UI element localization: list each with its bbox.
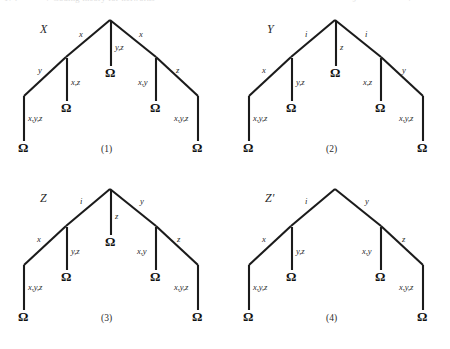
left-branch-diag: [24, 57, 66, 96]
tree-3-right-stem-label: x,y: [137, 246, 146, 256]
tree-4-leaf-left-label: x,y,z: [253, 282, 267, 292]
tree-2-omega-right-inner: Ω: [375, 101, 385, 114]
left-branch-diag: [249, 226, 291, 265]
tree-3-omega-center: Ω: [105, 235, 115, 248]
apex-left-edge: [66, 20, 110, 57]
tree-diagram-1: X x y,z x y x,z x,y z x,y,z x,y,z Ω Ω Ω …: [0, 0, 225, 175]
right-branch-diag: [381, 57, 423, 96]
right-branch-diag: [381, 226, 423, 265]
tree-diagram-4: Z′ i y x y,z x,y z x,y,z x,y,z Ω Ω Ω Ω (…: [225, 174, 450, 349]
tree-2-name: Y: [267, 22, 274, 37]
apex-left-edge: [66, 189, 110, 226]
tree-1-omega-right-inner: Ω: [150, 101, 160, 114]
tree-2-apex-center-label: z: [340, 42, 343, 52]
tree-3-right-diag-label: z: [177, 234, 180, 244]
tree-1-leaf-right-label: x,y,z: [174, 113, 188, 123]
tree-1-right-diag-label: z: [176, 65, 179, 75]
tree-3-omega-right-inner: Ω: [150, 270, 160, 283]
right-branch-diag: [156, 57, 198, 96]
tree-3-omega-leaf-left: Ω: [18, 310, 28, 323]
tree-1-omega-left-inner: Ω: [61, 101, 71, 114]
tree-3-apex-right-label: y: [140, 196, 144, 206]
left-branch-diag: [24, 226, 66, 265]
tree-1-name: X: [40, 22, 47, 37]
tree-4-right-diag-label: z: [402, 234, 405, 244]
tree-4-leaf-right-label: x,y,z: [399, 282, 413, 292]
tree-4-omega-left-inner: Ω: [286, 270, 296, 283]
tree-4-left-diag-label: x: [262, 234, 266, 244]
tree-1-apex-center-label: y,z: [115, 42, 124, 52]
apex-left-edge: [291, 20, 335, 57]
tree-2-caption: (2): [326, 144, 337, 154]
tree-2-left-diag-label: x: [262, 65, 266, 75]
tree-2-right-stem-label: x,z: [363, 77, 372, 87]
tree-1-leaf-left-label: x,y,z: [28, 113, 42, 123]
tree-3-left-stem-label: y,z: [71, 246, 80, 256]
tree-1-left-stem-label: x,z: [71, 77, 80, 87]
tree-1-omega-leaf-left: Ω: [18, 141, 28, 154]
tree-3-leaf-right-label: x,y,z: [174, 282, 188, 292]
tree-1-omega-center: Ω: [105, 66, 115, 79]
tree-2-omega-left-inner: Ω: [286, 101, 296, 114]
tree-1-right-stem-label: x,y: [138, 77, 147, 87]
right-branch-diag: [156, 226, 198, 265]
tree-3-leaf-left-label: x,y,z: [28, 282, 42, 292]
left-branch-diag: [249, 57, 291, 96]
tree-diagram-3: Z i z y x y,z x,y z x,y,z x,y,z Ω Ω Ω Ω …: [0, 174, 225, 349]
tree-4-omega-leaf-right: Ω: [417, 310, 427, 323]
tree-4-left-stem-label: y,z: [296, 246, 305, 256]
tree-4-name: Z′: [265, 191, 274, 206]
tree-2-left-stem-label: y,z: [296, 77, 305, 87]
tree-3-caption: (3): [101, 313, 112, 323]
tree-2-omega-center: Ω: [330, 66, 340, 79]
tree-4-apex-right-label: y: [365, 196, 369, 206]
tree-2-omega-leaf-left: Ω: [243, 141, 253, 154]
tree-2-leaf-right-label: x,y,z: [399, 113, 413, 123]
tree-3-name: Z: [40, 191, 47, 206]
tree-1-omega-leaf-right: Ω: [192, 141, 202, 154]
tree-3-apex-left-label: i: [80, 196, 82, 206]
tree-diagram-2: Y i z i x y,z x,z y x,y,z x,y,z Ω Ω Ω Ω …: [225, 0, 450, 175]
tree-3-apex-center-label: z: [115, 211, 118, 221]
tree-2-right-diag-label: y: [402, 65, 406, 75]
tree-4-omega-leaf-left: Ω: [243, 310, 253, 323]
apex-right-edge: [335, 189, 381, 226]
tree-1-caption: (1): [101, 144, 112, 154]
tree-4-right-stem-label: x,y: [362, 246, 371, 256]
tree-3-omega-leaf-right: Ω: [192, 310, 202, 323]
tree-3-left-diag-label: x: [37, 234, 41, 244]
apex-left-edge: [291, 189, 335, 226]
tree-2-omega-leaf-right: Ω: [417, 141, 427, 154]
tree-2-apex-left-label: i: [305, 29, 307, 39]
tree-2-apex-right-label: i: [365, 29, 367, 39]
tree-4-omega-right-inner: Ω: [375, 270, 385, 283]
tree-4-apex-left-label: i: [305, 196, 307, 206]
tree-1-apex-right-label: x: [139, 29, 143, 39]
tree-2-leaf-left-label: x,y,z: [253, 113, 267, 123]
tree-1-apex-left-label: x: [79, 29, 83, 39]
tree-4-caption: (4): [326, 313, 337, 323]
tree-1-left-diag-label: y: [38, 65, 42, 75]
tree-3-omega-left-inner: Ω: [61, 270, 71, 283]
